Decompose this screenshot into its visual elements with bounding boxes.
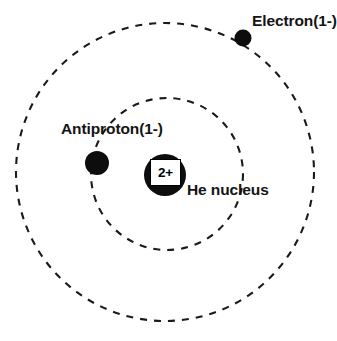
antiproton-label: Antiproton(1-) — [61, 121, 163, 137]
electron-particle — [235, 30, 252, 47]
nucleus-charge-label: 2+ — [158, 165, 173, 180]
electron-label: Electron(1-) — [252, 13, 337, 29]
atom-diagram: 2+ Electron(1-) Antiproton(1-) He nucleu… — [0, 0, 337, 341]
nucleus-charge-box: 2+ — [150, 159, 181, 186]
he-nucleus-label: He nucleus — [187, 182, 269, 198]
antiproton-particle — [85, 151, 109, 175]
